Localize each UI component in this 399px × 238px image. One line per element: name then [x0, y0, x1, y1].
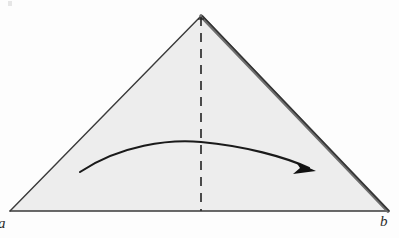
paper-triangle-fill	[10, 16, 388, 211]
vertex-label-b: b	[380, 214, 388, 229]
folded-triangle-figure	[0, 0, 399, 238]
diagram-canvas: a b	[0, 0, 399, 238]
vertex-label-a: a	[0, 216, 6, 231]
